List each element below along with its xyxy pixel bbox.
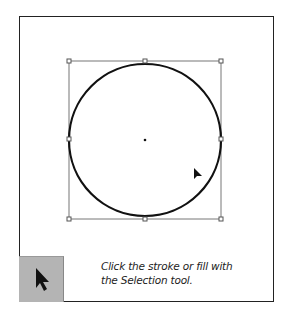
- instruction-caption: Click the stroke or fill with the Select…: [101, 259, 251, 287]
- handle-bottom-right[interactable]: [219, 217, 223, 221]
- handle-middle-left[interactable]: [67, 137, 71, 141]
- center-point-icon: [144, 139, 147, 142]
- caption-line-1: Click the stroke or fill with: [101, 259, 251, 273]
- handle-top-left[interactable]: [67, 59, 71, 63]
- handle-bottom-center[interactable]: [143, 217, 147, 221]
- handle-top-right[interactable]: [219, 59, 223, 63]
- handle-bottom-left[interactable]: [67, 217, 71, 221]
- arrow-pointer-icon: [19, 257, 63, 302]
- selection-tool-button[interactable]: [19, 256, 64, 302]
- handle-middle-right[interactable]: [219, 137, 223, 141]
- caption-line-2: the Selection tool.: [101, 273, 251, 287]
- handle-top-center[interactable]: [143, 59, 147, 63]
- cursor-arrow-icon: [194, 168, 202, 179]
